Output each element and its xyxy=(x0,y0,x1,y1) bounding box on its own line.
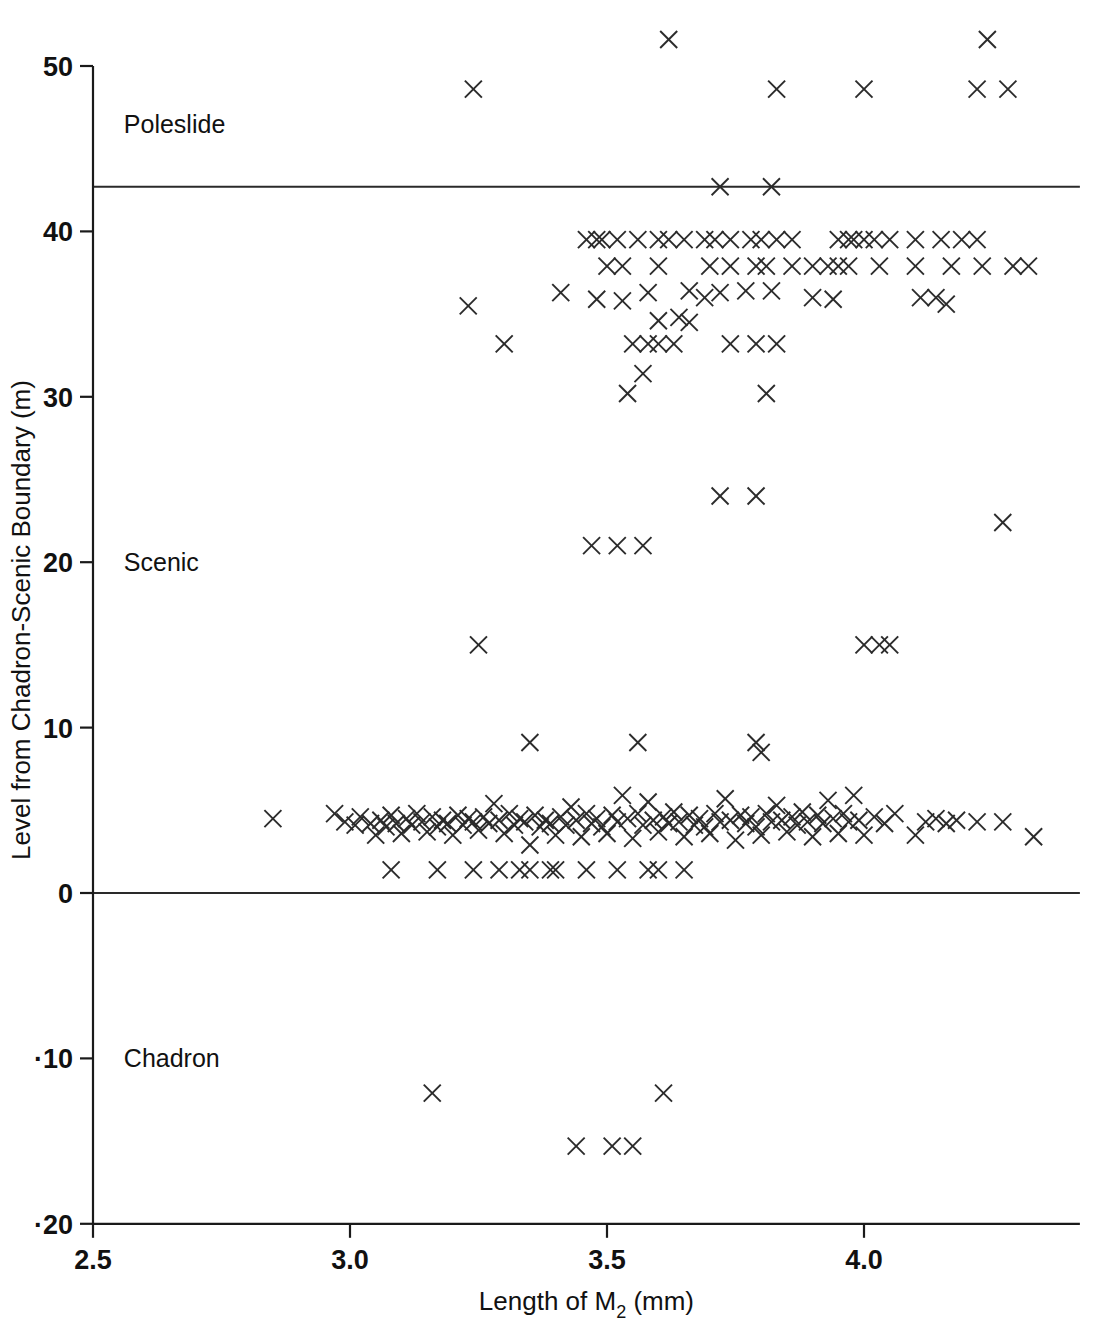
data-point-marker xyxy=(1020,258,1037,275)
data-point-marker xyxy=(994,813,1011,830)
y-tick-label: 10 xyxy=(43,714,73,744)
data-point-marker xyxy=(429,861,446,878)
x-tick-label: 3.5 xyxy=(588,1245,626,1275)
y-tick-label: 0 xyxy=(58,879,73,909)
data-point-marker xyxy=(491,861,508,878)
unit-labels-group: PoleslideScenicChadron xyxy=(124,110,225,1073)
data-point-marker xyxy=(856,231,873,248)
data-point-marker xyxy=(840,258,857,275)
data-point-marker xyxy=(511,861,528,878)
data-point-marker xyxy=(871,258,888,275)
data-point-marker xyxy=(809,807,826,824)
data-point-marker xyxy=(568,1138,585,1155)
data-point-marker xyxy=(938,296,955,313)
data-point-marker xyxy=(866,231,883,248)
y-tick-label: 40 xyxy=(43,217,73,247)
data-point-marker xyxy=(465,81,482,98)
data-point-marker xyxy=(624,335,641,352)
data-point-marker xyxy=(820,792,837,809)
data-point-marker xyxy=(856,827,873,844)
data-point-marker xyxy=(722,231,739,248)
scatter-plot-figure: 50403020100·10·20 2.53.03.54.0 Poleslide… xyxy=(0,0,1107,1328)
data-point-marker xyxy=(969,231,986,248)
data-point-marker xyxy=(830,231,847,248)
data-point-marker xyxy=(881,231,898,248)
data-point-marker xyxy=(640,284,657,301)
y-axis-title: Level from Chadron-Scenic Boundary (m) xyxy=(6,380,36,860)
data-point-marker xyxy=(578,231,595,248)
y-tick-label: ·10 xyxy=(34,1044,73,1074)
data-point-marker xyxy=(563,798,580,815)
data-point-marker xyxy=(758,385,775,402)
data-point-marker xyxy=(650,861,667,878)
data-point-marker xyxy=(784,258,801,275)
data-point-marker xyxy=(748,488,765,505)
data-point-marker xyxy=(784,231,801,248)
data-point-marker xyxy=(1005,258,1022,275)
data-point-marker xyxy=(768,797,785,814)
data-point-marker xyxy=(907,827,924,844)
data-point-marker xyxy=(722,335,739,352)
data-point-marker xyxy=(552,284,569,301)
data-point-marker xyxy=(722,258,739,275)
data-point-marker xyxy=(850,812,867,829)
x-title-tail: (mm) xyxy=(626,1286,694,1316)
data-point-marker xyxy=(994,514,1011,531)
data-point-marker xyxy=(352,808,369,825)
data-point-marker xyxy=(886,805,903,822)
data-point-marker xyxy=(599,258,616,275)
data-point-marker xyxy=(624,830,641,847)
data-markers-group xyxy=(264,31,1042,1155)
data-point-marker xyxy=(470,822,487,839)
unit-label-scenic: Scenic xyxy=(124,548,199,576)
data-point-marker xyxy=(665,335,682,352)
data-point-marker xyxy=(712,488,729,505)
data-point-marker xyxy=(326,805,343,822)
y-tick-label: 20 xyxy=(43,548,73,578)
data-point-marker xyxy=(465,861,482,878)
data-point-marker xyxy=(573,828,590,845)
x-title-subscript: 2 xyxy=(616,1302,626,1322)
data-point-marker xyxy=(609,537,626,554)
data-point-marker xyxy=(999,81,1016,98)
data-point-marker xyxy=(933,231,950,248)
data-point-marker xyxy=(753,231,770,248)
data-point-marker xyxy=(640,794,657,811)
data-point-marker xyxy=(521,837,538,854)
data-point-marker xyxy=(856,636,873,653)
data-point-marker xyxy=(614,787,631,804)
data-point-marker xyxy=(737,282,754,299)
data-point-marker xyxy=(640,861,657,878)
x-axis-ticks: 2.53.03.54.0 xyxy=(74,1224,883,1275)
data-point-marker xyxy=(609,861,626,878)
data-point-marker xyxy=(650,231,667,248)
data-point-marker xyxy=(712,284,729,301)
data-point-marker xyxy=(496,335,513,352)
data-point-marker xyxy=(634,537,651,554)
data-point-marker xyxy=(676,861,693,878)
data-point-marker xyxy=(742,231,759,248)
data-point-marker xyxy=(1025,828,1042,845)
y-tick-label: 50 xyxy=(43,52,73,82)
data-point-marker xyxy=(804,828,821,845)
data-point-marker xyxy=(768,335,785,352)
data-point-marker xyxy=(604,1138,621,1155)
data-point-marker xyxy=(696,289,713,306)
data-point-marker xyxy=(706,231,723,248)
data-point-marker xyxy=(866,808,883,825)
data-point-marker xyxy=(629,734,646,751)
data-point-marker xyxy=(820,258,837,275)
x-tick-label: 4.0 xyxy=(845,1245,883,1275)
data-point-marker xyxy=(424,1085,441,1102)
data-point-marker xyxy=(521,861,538,878)
data-point-marker xyxy=(979,31,996,48)
y-tick-label: 30 xyxy=(43,383,73,413)
x-axis-title: Length of M2 (mm) xyxy=(479,1286,694,1322)
data-point-marker xyxy=(825,291,842,308)
data-point-marker xyxy=(470,636,487,653)
data-point-marker xyxy=(614,258,631,275)
x-title-main: Length of M xyxy=(479,1286,616,1316)
data-point-marker xyxy=(871,636,888,653)
x-tick-label: 3.0 xyxy=(331,1245,369,1275)
data-point-marker xyxy=(727,832,744,849)
